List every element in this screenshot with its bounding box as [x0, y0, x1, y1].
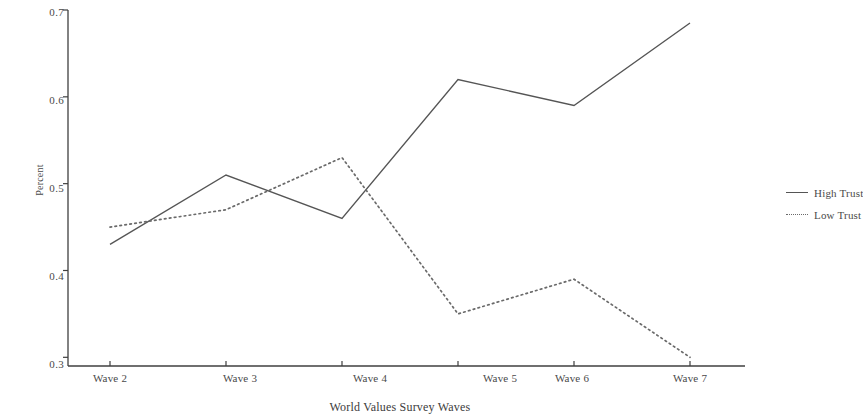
- dotted-line-swatch-icon: [786, 210, 808, 220]
- solid-line-swatch-icon: [786, 188, 808, 198]
- legend-label-low-trust: Low Trust: [814, 209, 861, 221]
- legend-label-high-trust: High Trust: [814, 187, 863, 199]
- legend-item-high-trust: High Trust: [786, 182, 861, 204]
- legend: High Trust Low Trust: [786, 182, 861, 226]
- legend-item-low-trust: Low Trust: [786, 204, 861, 226]
- series-line-high-trust: [110, 23, 690, 244]
- series-line-low-trust: [110, 158, 690, 358]
- x-axis-ticks: [110, 361, 690, 366]
- y-axis-ticks: [63, 10, 68, 357]
